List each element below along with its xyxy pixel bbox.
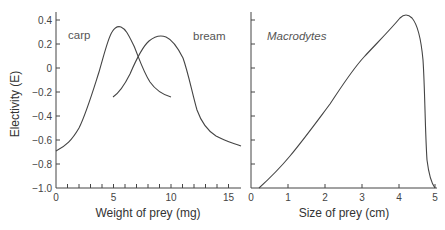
- svg-text:−0.8: −0.8: [32, 159, 52, 170]
- svg-text:−0.6: −0.6: [32, 135, 52, 146]
- bream-curve: [113, 36, 241, 146]
- svg-text:0: 0: [53, 192, 59, 203]
- svg-text:−1.0: −1.0: [32, 183, 52, 194]
- svg-text:0.4: 0.4: [38, 15, 52, 26]
- bream-label: bream: [193, 30, 226, 42]
- y-axis-title: Electivity (E): [8, 71, 22, 138]
- svg-text:1: 1: [285, 192, 291, 203]
- svg-text:0: 0: [248, 192, 254, 203]
- left-plot: 0.4 0.2 0 −0.2 −0.4 −0.6 −0.8 −1.0: [32, 12, 241, 220]
- svg-text:0: 0: [46, 63, 52, 74]
- svg-text:4: 4: [396, 192, 402, 203]
- carp-curve: [56, 27, 171, 151]
- svg-text:2: 2: [322, 192, 328, 203]
- chart-figure: Electivity (E) 0.4 0.2 0 −0.2 −0.4 −0.6 …: [0, 0, 445, 230]
- carp-label: carp: [68, 29, 90, 41]
- svg-text:−0.4: −0.4: [32, 111, 52, 122]
- macrodytes-label: Macrodytes: [267, 30, 327, 42]
- svg-text:15: 15: [223, 192, 235, 203]
- right-plot: 0 1 2 3 4 5 Size of prey (cm) Macrodytes: [248, 12, 438, 220]
- right-y-ticks: [251, 20, 255, 164]
- left-x-tick-labels: 0 5 10 15: [53, 192, 234, 203]
- right-x-ticks: [288, 184, 435, 188]
- svg-text:10: 10: [165, 192, 177, 203]
- svg-text:3: 3: [359, 192, 365, 203]
- left-x-ticks: [68, 184, 229, 188]
- svg-text:5: 5: [432, 192, 438, 203]
- left-y-tick-labels: 0.4 0.2 0 −0.2 −0.4 −0.6 −0.8 −1.0: [32, 15, 52, 194]
- svg-text:5: 5: [111, 192, 117, 203]
- left-y-ticks: [56, 20, 60, 164]
- svg-text:−0.2: −0.2: [32, 87, 52, 98]
- right-x-tick-labels: 0 1 2 3 4 5: [248, 192, 438, 203]
- svg-text:0.2: 0.2: [38, 39, 52, 50]
- left-x-axis-title: Weight of prey (mg): [95, 206, 200, 220]
- right-x-axis-title: Size of prey (cm): [299, 206, 390, 220]
